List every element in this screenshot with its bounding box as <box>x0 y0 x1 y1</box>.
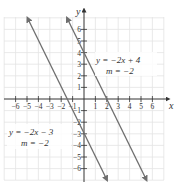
svg-text:−6: −6 <box>12 102 20 111</box>
equation-label-1: y = −2x + 4 <box>95 55 141 65</box>
coordinate-plane: −6 −5 −4 −3 −2 −1 1 2 3 4 5 6 1 2 3 4 5 … <box>0 0 178 189</box>
x-axis-label: x <box>168 100 174 111</box>
svg-text:−3: −3 <box>73 130 81 139</box>
svg-text:4: 4 <box>77 49 81 58</box>
svg-text:6: 6 <box>77 25 81 34</box>
slope-label-1: m = −2 <box>106 66 134 76</box>
svg-text:−6: −6 <box>73 164 81 173</box>
equation-label-2: y = −2x − 3 <box>8 127 54 137</box>
svg-text:3: 3 <box>77 60 81 69</box>
svg-text:5: 5 <box>139 102 143 111</box>
svg-text:3: 3 <box>116 102 120 111</box>
svg-text:1: 1 <box>77 83 81 92</box>
svg-text:4: 4 <box>128 102 132 111</box>
y-axis-label: y <box>75 6 81 17</box>
x-tick-labels: −6 −5 −4 −3 −2 −1 1 2 3 4 5 6 <box>12 102 155 111</box>
svg-text:−5: −5 <box>23 102 31 111</box>
svg-text:−5: −5 <box>73 153 81 162</box>
svg-text:−3: −3 <box>46 102 54 111</box>
svg-text:−2: −2 <box>57 102 65 111</box>
svg-text:6: 6 <box>151 102 155 111</box>
svg-text:2: 2 <box>77 72 81 81</box>
svg-text:−4: −4 <box>73 141 81 150</box>
svg-text:−4: −4 <box>34 102 42 111</box>
svg-text:1: 1 <box>94 102 98 111</box>
slope-label-2: m = −2 <box>21 138 49 148</box>
